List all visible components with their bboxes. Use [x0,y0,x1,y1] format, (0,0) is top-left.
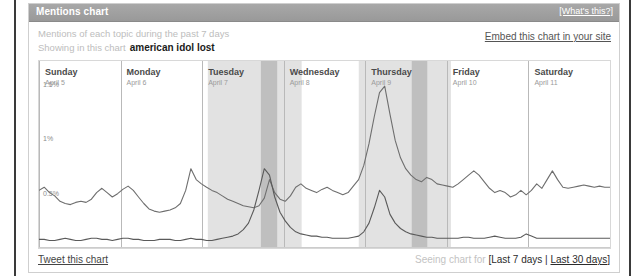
day-label-name: Tuesday [208,67,244,77]
chart-day-labels: SundayApril 5MondayApril 6TuesdayApril 7… [45,67,573,87]
widget-footer: Tweet this chart Seeing chart for [Last … [29,250,619,272]
day-label-date: April 7 [208,79,228,87]
day-label-date: April 10 [453,79,477,87]
chart-y-axis: 1.5%1%0.5% [43,81,59,197]
page-title: Mentions chart [36,6,109,17]
day-label-name: Saturday [534,67,573,77]
day-label-date: April 8 [290,79,310,87]
chart-line-american-idol [39,86,610,212]
whats-this-link[interactable]: [What's this?] [559,6,613,16]
range-separator: | [542,254,550,265]
widget-subheader: Mentions of each topic during the past 7… [29,22,619,60]
day-label-name: Friday [453,67,480,77]
y-tick-label: 1% [43,135,53,142]
range-last-7-days[interactable]: Last 7 days [491,254,542,265]
showing-in-chart-row: Showing in this chartamerican idol lost [38,40,611,55]
page-border-right [629,0,631,276]
day-label-name: Wednesday [290,67,340,77]
page-border-left [14,0,16,276]
day-label-date: April 5 [45,79,65,87]
topic-list: american idol lost [130,42,215,53]
chart-svg: 1.5%1%0.5% SundayApril 5MondayApril 6Tue… [39,61,610,248]
day-label-date: April 6 [127,79,147,87]
seeing-chart-for-label: Seeing chart for [415,254,486,265]
chart-series-group [39,86,610,240]
widget-header: Mentions chart [What's this?] [29,4,619,22]
mentions-chart-widget: Mentions chart [What's this?] Mentions o… [28,3,620,273]
embed-chart-link[interactable]: Embed this chart in your site [485,31,611,42]
range-selector: Seeing chart for [Last 7 days | Last 30 … [415,254,610,265]
day-label-name: Sunday [45,67,78,77]
chart-line-lost [39,169,610,241]
day-label-date: April 9 [371,79,391,87]
day-label-date: April 11 [534,79,557,87]
bracket-close: ] [607,254,610,265]
showing-label: Showing in this chart [38,42,126,53]
day-label-name: Monday [127,67,161,77]
mentions-line-chart[interactable]: 1.5%1%0.5% SundayApril 5MondayApril 6Tue… [39,61,610,248]
chart-shaded-bands [208,61,451,248]
day-label-name: Thursday [371,67,412,77]
range-last-30-days[interactable]: Last 30 days [551,254,608,265]
tweet-this-chart-link[interactable]: Tweet this chart [38,254,108,265]
chart-panel: 1.5%1%0.5% SundayApril 5MondayApril 6Tue… [38,60,611,249]
